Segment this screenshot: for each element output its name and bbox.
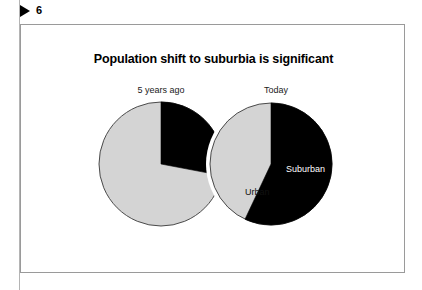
slide-number: 6 [36,2,42,18]
slice-label-urban: Urban [245,187,270,197]
pie-chart-today: Suburban Urban [206,99,336,229]
pie-chart-5-years-ago [99,102,223,226]
pie-chart-group: Suburban Urban [21,25,406,274]
play-triangle-icon[interactable] [20,5,30,17]
header-bar: 6 [0,0,422,22]
slice-label-suburban: Suburban [286,164,325,174]
slide-frame: Population shift to suburbia is signific… [20,24,405,273]
pie-chart-svg: Suburban Urban [21,25,406,274]
